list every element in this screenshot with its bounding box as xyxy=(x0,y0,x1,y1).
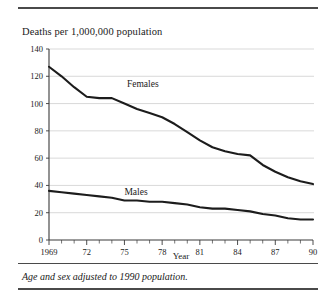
x-tick-label: 81 xyxy=(196,247,205,257)
line-chart-svg: 020406080100120140 196972757881848790 Fe… xyxy=(0,0,334,298)
y-tick-label: 80 xyxy=(35,126,44,136)
x-tick-label: 87 xyxy=(271,247,280,257)
y-tick-label: 60 xyxy=(35,153,44,163)
y-tick-label: 0 xyxy=(39,235,43,245)
x-tick-label: 78 xyxy=(158,247,167,257)
series-line-females xyxy=(49,67,313,184)
y-tick-label: 140 xyxy=(30,44,43,54)
x-tick-label: 75 xyxy=(120,247,129,257)
x-tick-label: 72 xyxy=(82,247,91,257)
footnote-divider-rule xyxy=(18,263,318,264)
x-tick-label: 1969 xyxy=(41,247,58,257)
y-tick-label: 40 xyxy=(35,180,44,190)
y-tick-label: 120 xyxy=(30,71,43,81)
chart-plot-area: 020406080100120140 196972757881848790 Fe… xyxy=(0,0,334,298)
y-tick-label: 20 xyxy=(35,208,44,218)
figure-footnote: Age and sex adjusted to 1990 population. xyxy=(22,271,188,282)
x-tick-label: 90 xyxy=(309,247,318,257)
series-label-males: Males xyxy=(124,187,148,197)
series-line-males xyxy=(49,191,313,220)
figure-panel: Deaths per 1,000,000 population 02040608… xyxy=(0,0,334,298)
gridlines-group xyxy=(49,49,314,213)
y-axis-ticks-group: 020406080100120140 xyxy=(30,44,49,245)
series-label-females: Females xyxy=(127,79,159,89)
x-axis-title: Year xyxy=(173,251,190,261)
x-tick-label: 84 xyxy=(233,247,242,257)
bottom-divider-rule xyxy=(18,288,318,290)
y-tick-label: 100 xyxy=(30,99,43,109)
